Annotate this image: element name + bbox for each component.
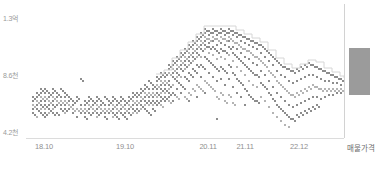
listing-price-divider (344, 4, 345, 138)
x-axis-tick-label: 21.11 (236, 142, 253, 151)
price-scatter-chart: 1.3억 8.6천 4.2천 18.1019.1020.1121.1122.12… (0, 0, 378, 171)
x-axis-tick-label: 22.12 (290, 142, 308, 151)
x-axis-baseline (26, 138, 344, 139)
listing-price-bar (349, 48, 370, 95)
envelope-line (0, 0, 378, 171)
x-axis-tick-label: 18.10 (35, 142, 53, 151)
x-axis-tick-label: 매물가격 (347, 142, 374, 153)
x-axis-tick-label: 19.10 (116, 142, 134, 151)
plot-area (0, 0, 378, 171)
x-axis-tick-label: 20.11 (199, 142, 216, 151)
